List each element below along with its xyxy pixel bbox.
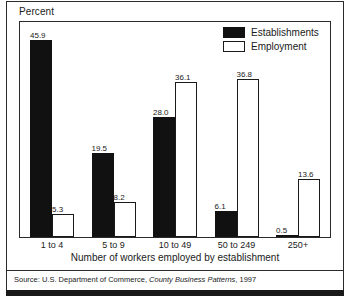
source-note: Source: U.S. Department of Commerce, Cou… (14, 275, 256, 284)
bar-establishments-2: 28.0 (153, 117, 175, 237)
x-tick-label-0: 1 to 4 (22, 240, 82, 250)
chart-legend: EstablishmentsEmployment (223, 27, 319, 52)
source-prefix: Source: U.S. Department of Commerce, (14, 275, 149, 284)
bar-value-label: 5.3 (52, 205, 63, 214)
bar-value-label: 8.2 (114, 193, 125, 202)
chart-figure: Percent 45.95.319.58.228.036.16.136.80.5… (0, 0, 352, 306)
source-suffix: , 1997 (235, 275, 256, 284)
bar-value-label: 6.1 (215, 202, 226, 211)
legend-swatch-establishments-icon (223, 27, 245, 38)
bar-value-label: 36.1 (175, 73, 191, 82)
legend-swatch-employment-icon (223, 41, 245, 52)
bar-employment-1: 8.2 (114, 202, 136, 237)
source-divider (7, 270, 343, 271)
x-tick-label-1: 5 to 9 (84, 240, 144, 250)
legend-label: Employment (251, 41, 307, 52)
bar-employment-4: 13.6 (298, 179, 320, 237)
bar-value-label: 28.0 (153, 108, 169, 117)
figure-bottom-bar (6, 290, 344, 296)
bar-value-label: 0.5 (276, 226, 287, 235)
bar-establishments-0: 45.9 (30, 40, 52, 237)
legend-item-establishments: Establishments (223, 27, 319, 38)
bar-value-label: 45.9 (30, 31, 46, 40)
bar-establishments-1: 19.5 (92, 153, 114, 237)
bar-establishments-4: 0.5 (276, 235, 298, 237)
bar-employment-3: 36.8 (237, 79, 259, 237)
bar-value-label: 36.8 (237, 70, 253, 79)
legend-item-employment: Employment (223, 41, 319, 52)
bar-value-label: 13.6 (298, 170, 314, 179)
legend-label: Establishments (251, 27, 319, 38)
bars-layer: 45.95.319.58.228.036.16.136.80.513.6 (20, 22, 330, 237)
x-axis-title: Number of workers employed by establishm… (19, 252, 331, 263)
plot-area: 45.95.319.58.228.036.16.136.80.513.6 Est… (19, 21, 331, 238)
bar-establishments-3: 6.1 (215, 211, 237, 237)
bar-value-label: 19.5 (92, 144, 108, 153)
x-tick-label-2: 10 to 49 (145, 240, 205, 250)
bar-employment-2: 36.1 (175, 82, 197, 237)
x-tick-label-3: 50 to 249 (207, 240, 267, 250)
x-tick-label-4: 250+ (268, 240, 328, 250)
y-axis-label: Percent (19, 6, 54, 17)
source-publication: County Business Patterns (149, 275, 235, 284)
bar-employment-0: 5.3 (52, 214, 74, 237)
